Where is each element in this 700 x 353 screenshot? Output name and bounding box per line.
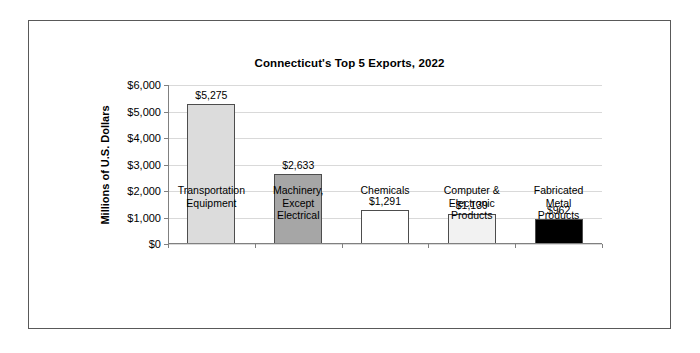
bar[interactable]	[187, 104, 235, 244]
bar-value-label: $1,291	[369, 195, 401, 207]
x-category-label: Fabricated Metal Products	[515, 184, 602, 222]
y-axis-title-text: Millions of U.S. Dollars	[99, 105, 111, 224]
bar-slot: $5,275	[168, 85, 255, 244]
y-axis-line	[168, 85, 169, 244]
y-tick-label: $1,000	[127, 212, 161, 224]
x-category-label: Machinery, Except Electrical	[255, 184, 342, 222]
chart-title: Connecticut's Top 5 Exports, 2022	[29, 57, 670, 69]
y-tick-label: $6,000	[127, 79, 161, 91]
x-category-label: Chemicals	[342, 184, 429, 197]
x-tick-mark	[168, 244, 169, 248]
x-tick-mark	[515, 244, 516, 248]
figure-frame: Connecticut's Top 5 Exports, 2022 Millio…	[28, 20, 671, 329]
x-tick-mark	[428, 244, 429, 248]
y-tick-label: $4,000	[127, 132, 161, 144]
bar-value-label: $5,275	[195, 89, 227, 101]
x-category-label: Transportation Equipment	[168, 184, 255, 209]
y-axis-title: Millions of U.S. Dollars	[97, 85, 113, 244]
x-tick-mark	[255, 244, 256, 248]
y-tick-label: $5,000	[127, 106, 161, 118]
y-tick-label: $3,000	[127, 159, 161, 171]
x-tick-mark	[602, 244, 603, 248]
x-category-label: Computer & Electronic Products	[428, 184, 515, 222]
bar[interactable]	[361, 210, 409, 244]
gridline	[168, 244, 602, 245]
x-tick-mark	[342, 244, 343, 248]
bar-value-label: $2,633	[282, 159, 314, 171]
y-tick-label: $2,000	[127, 185, 161, 197]
bar[interactable]	[535, 219, 583, 244]
bar-slot: $1,291	[342, 85, 429, 244]
y-tick-label: $0	[149, 238, 161, 250]
x-axis-line	[168, 243, 602, 244]
